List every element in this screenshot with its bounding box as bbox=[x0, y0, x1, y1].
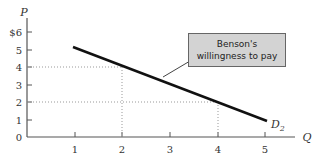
x-tick-3: 3 bbox=[167, 144, 173, 155]
y-tick-1: 1 bbox=[16, 115, 22, 126]
callout-leader-line bbox=[163, 61, 190, 77]
y-tick-5: 5 bbox=[16, 45, 22, 56]
curve-label: D2 bbox=[270, 118, 285, 133]
callout-line-2: willingness to pay bbox=[189, 50, 285, 62]
y-tick-3: 3 bbox=[16, 80, 22, 91]
x-ticks bbox=[75, 132, 265, 137]
x-tick-4: 4 bbox=[215, 144, 221, 155]
y-axis-title: P bbox=[19, 6, 28, 19]
reference-lines bbox=[27, 67, 218, 137]
demand-chart: 0 1 2 3 4 5 $6 1 2 3 4 5 P Q D2 bbox=[0, 0, 322, 165]
y-tick-4: 4 bbox=[16, 62, 22, 73]
willingness-to-pay-callout: Benson's willingness to pay bbox=[188, 33, 286, 67]
x-tick-5: 5 bbox=[262, 144, 268, 155]
y-tick-6: $6 bbox=[9, 27, 22, 38]
y-tick-0: 0 bbox=[16, 132, 22, 143]
y-ticks bbox=[27, 32, 32, 120]
x-axis-title: Q bbox=[302, 131, 311, 144]
callout-line-1: Benson's bbox=[189, 38, 285, 50]
x-tick-2: 2 bbox=[119, 144, 125, 155]
x-tick-1: 1 bbox=[72, 144, 78, 155]
y-tick-2: 2 bbox=[16, 97, 22, 108]
